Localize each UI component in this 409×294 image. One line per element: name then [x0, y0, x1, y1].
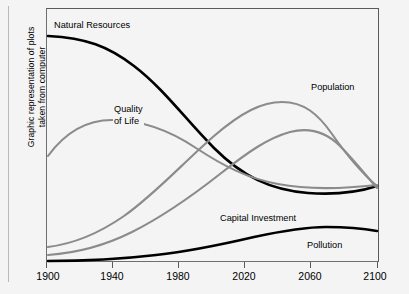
x-tick-label: 1940 — [100, 270, 123, 282]
x-tick-label: 2100 — [363, 270, 386, 282]
x-tick-mark — [310, 262, 311, 268]
x-tick-mark — [377, 262, 378, 268]
curve-natural-resources — [48, 36, 377, 194]
x-axis: 1900 1940 1980 2020 2060 2100 — [46, 262, 379, 292]
x-tick-label: 2060 — [298, 270, 321, 282]
plot-area: Natural Resources Quality of Life Popula… — [46, 8, 379, 262]
x-tick-mark — [244, 262, 245, 268]
series-label-population: Population — [310, 82, 355, 94]
y-axis-label: Graphic representation of plots taken fr… — [26, 0, 48, 187]
x-tick-label: 2020 — [232, 270, 255, 282]
curve-quality-of-life — [48, 120, 377, 188]
chart-screenshot: Graphic representation of plots taken fr… — [0, 0, 409, 294]
curve-population — [48, 102, 377, 247]
x-tick-label: 1900 — [36, 270, 59, 282]
x-tick-mark — [178, 262, 179, 268]
curves-svg — [46, 8, 379, 262]
x-tick-label: 1980 — [166, 270, 189, 282]
x-tick-mark — [112, 262, 113, 268]
series-label-capital-investment: Capital Investment — [219, 213, 297, 225]
figure-left-rule — [8, 6, 9, 282]
series-label-pollution: Pollution — [306, 240, 343, 252]
series-label-quality-of-life: Quality of Life — [113, 104, 144, 127]
series-label-natural-resources: Natural Resources — [53, 20, 131, 32]
x-tick-mark — [46, 262, 47, 268]
